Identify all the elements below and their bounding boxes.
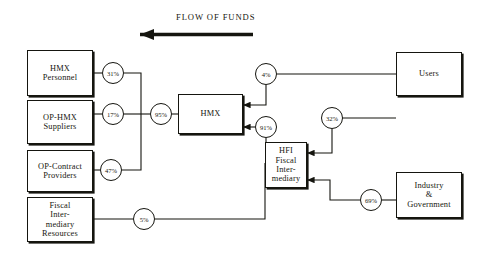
percent-badge-31: 31% <box>102 62 124 84</box>
percent-badge-4: 4% <box>255 63 277 85</box>
percent-badge-91: 91% <box>255 116 277 138</box>
percent-badge-5: 5% <box>133 208 155 230</box>
node-users: Users <box>396 52 462 96</box>
node-industry-government: Industry & Government <box>396 172 462 218</box>
node-op-hmx-suppliers: OP-HMX Suppliers <box>27 100 93 144</box>
node-hmx-personnel-label: HMX Personnel <box>41 64 79 83</box>
percent-badge-95: 95% <box>150 103 172 125</box>
node-hmx: HMX <box>178 94 243 134</box>
percent-badge-47: 47% <box>100 159 122 181</box>
node-industry-government-label: Industry & Government <box>405 181 452 209</box>
flow-69-to-hfi <box>307 180 360 200</box>
flow-of-funds-diagram: FLOW OF FUNDS HMX Personnel OP-HMX Suppl… <box>0 0 486 260</box>
flow-32-to-hfi <box>307 129 332 153</box>
diagram-title: FLOW OF FUNDS <box>176 12 255 22</box>
node-hfi-label: HFI Fiscal Inter- mediary <box>270 146 303 184</box>
node-hfi: HFI Fiscal Inter- mediary <box>265 142 307 188</box>
node-fiscal-intermediary-resources-label: Fiscal Inter- mediary Resources <box>40 201 80 239</box>
node-op-hmx-suppliers-label: OP-HMX Suppliers <box>41 113 79 132</box>
flow-4-to-hmx <box>243 85 266 105</box>
node-hmx-label: HMX <box>199 109 223 118</box>
node-op-contract-providers-label: OP-Contract Providers <box>36 162 84 181</box>
node-hmx-personnel: HMX Personnel <box>27 50 93 96</box>
percent-badge-69: 69% <box>360 189 382 211</box>
flow-5-to-hfi <box>155 163 265 219</box>
node-users-label: Users <box>417 69 441 78</box>
percent-badge-32: 32% <box>321 107 343 129</box>
flow-direction-arrow <box>140 29 253 40</box>
node-op-contract-providers: OP-Contract Providers <box>27 150 93 192</box>
percent-badge-17: 17% <box>102 103 124 125</box>
node-fiscal-intermediary-resources: Fiscal Inter- mediary Resources <box>27 197 93 242</box>
